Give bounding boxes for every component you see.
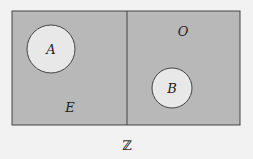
set-b-label: B [166,81,177,96]
region-o-label: O [178,24,189,39]
venn-diagram: A B O E ℤ [0,0,253,159]
set-a-label: A [45,42,55,57]
region-e-label: E [64,100,75,115]
universe-label: ℤ [122,138,132,153]
